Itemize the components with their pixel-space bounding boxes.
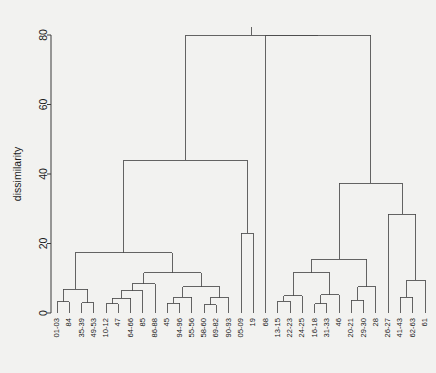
leaf-label: 41-43: [395, 318, 404, 337]
leaf-label: 05-09: [236, 318, 245, 337]
dendrogram-link: [106, 304, 118, 313]
leaf-label: 47: [113, 318, 122, 326]
dendrogram-link: [351, 300, 363, 313]
leaf-label: 68: [261, 318, 270, 326]
leaf-label: 20-21: [346, 318, 355, 337]
dendrogram-link: [57, 302, 69, 313]
dendrogram-link: [174, 297, 192, 313]
leaf-label: 13-15: [273, 318, 282, 337]
leaf-label: 49-53: [89, 318, 98, 337]
dendrogram-link: [284, 296, 302, 313]
dendrogram-link: [124, 160, 247, 252]
leaf-label: 84: [64, 318, 73, 326]
leaf-label: 94-96: [175, 318, 184, 337]
y-axis-tick-label: 60: [37, 99, 49, 111]
leaf-label: 01-03: [52, 318, 61, 337]
dendrogram-svg: 020406080 01-038435-3949-5310-124764-668…: [0, 0, 436, 373]
y-axis: 020406080: [37, 29, 51, 316]
y-axis-tick-label: 40: [37, 168, 49, 180]
y-axis-tick-label: 0: [37, 310, 49, 316]
dendrogram-link: [293, 273, 330, 296]
leaf-label: 64-66: [126, 318, 135, 337]
dendrogram-link: [339, 183, 402, 259]
dendrogram-link: [82, 303, 94, 313]
leaf-label: 45: [162, 318, 171, 326]
dendrogram-link: [167, 303, 179, 313]
dendrogram-link: [204, 305, 216, 313]
leaf-label: 22-23: [285, 318, 294, 337]
leaf-label: 62-63: [408, 318, 417, 337]
dendrogram-link: [278, 301, 290, 313]
dendrogram-links: [57, 27, 425, 313]
y-axis-tick-label: 80: [37, 29, 49, 41]
dendrogram-figure: 020406080 01-038435-3949-5310-124764-668…: [0, 0, 436, 373]
leaf-label: 46: [334, 318, 343, 326]
y-axis-tick-label: 20: [37, 238, 49, 250]
leaf-label: 69-82: [211, 318, 220, 337]
leaf-label: 85: [138, 318, 147, 326]
y-axis-title: dissimilarity: [11, 146, 23, 201]
dendrogram-link: [241, 233, 253, 313]
dendrogram-link: [112, 298, 130, 313]
leaf-label: 29-30: [359, 318, 368, 337]
leaf-label: 35-39: [77, 318, 86, 337]
dendrogram-link: [400, 297, 412, 313]
leaf-label: 31-33: [322, 318, 331, 337]
dendrogram-link: [358, 287, 376, 313]
dendrogram-link: [132, 284, 155, 313]
dendrogram-link: [63, 289, 88, 302]
leaf-label: 26-27: [383, 318, 392, 337]
dendrogram-link: [388, 214, 416, 313]
leaf-label: 55-56: [187, 318, 196, 337]
leaf-label: 28: [371, 318, 380, 326]
dendrogram-link: [266, 35, 371, 313]
leaf-label: 19: [248, 318, 257, 326]
leaf-label: 61: [420, 318, 429, 326]
leaf-label: 16-18: [310, 318, 319, 337]
dendrogram-link: [144, 273, 202, 287]
leaf-label: 58-60: [199, 318, 208, 337]
y-axis-title-text: dissimilarity: [11, 146, 23, 201]
leaf-label: 90-93: [224, 318, 233, 337]
dendrogram-link: [183, 287, 220, 298]
leaf-label: 10-12: [101, 318, 110, 337]
leaf-labels: 01-038435-3949-5310-124764-668586-884594…: [52, 318, 429, 337]
dendrogram-link: [210, 298, 228, 313]
dendrogram-link: [186, 35, 319, 160]
dendrogram-link: [315, 304, 327, 313]
leaf-label: 24-25: [297, 318, 306, 337]
dendrogram-link: [121, 291, 142, 313]
plot-area: 020406080 01-038435-3949-5310-124764-668…: [0, 0, 436, 373]
leaf-label: 86-88: [150, 318, 159, 337]
dendrogram-link: [75, 253, 172, 290]
